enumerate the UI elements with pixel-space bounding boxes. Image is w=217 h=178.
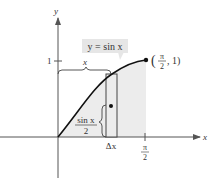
curve-label-pointer: [118, 52, 124, 60]
point-label-open-paren: (: [151, 53, 156, 69]
sin-half-numerator: sin x: [77, 115, 95, 125]
y-tick-label-one: 1: [47, 56, 52, 66]
delta-x-label: Δx: [106, 141, 117, 151]
x-tick-label-two: 2: [143, 153, 147, 162]
x-tick-label-pi: π: [143, 143, 147, 152]
centroid-dot: [109, 104, 113, 108]
point-label-two: 2: [160, 62, 164, 71]
diagram: y = sin x y x 1 π 2 x sin x 2 Δx ( π 2 ,…: [0, 0, 217, 178]
endpoint-dot: [144, 58, 148, 62]
brace-x-label: x: [82, 57, 87, 67]
x-axis-label: x: [202, 132, 207, 142]
brace-x: [58, 67, 111, 74]
point-label-rest: , 1): [167, 55, 180, 67]
curve-label: y = sin x: [88, 41, 123, 52]
y-axis-label: y: [53, 6, 58, 16]
point-label-pi: π: [160, 52, 164, 61]
sin-half-denominator: 2: [84, 126, 89, 136]
